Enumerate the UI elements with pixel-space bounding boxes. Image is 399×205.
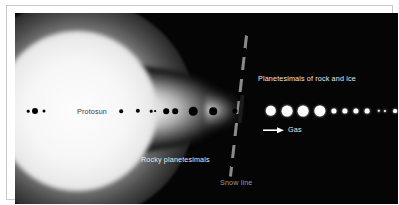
rocky-planetesimal <box>163 108 169 114</box>
rocky-planetesimal <box>172 108 178 114</box>
icy-planetesimal <box>331 108 336 113</box>
icy-planetesimal <box>298 106 309 117</box>
rocky-planetesimal <box>189 107 198 116</box>
label-protosun: Protosun <box>77 108 107 115</box>
diagram-canvas: Protosun Rocky planetesimals Planetesima… <box>15 13 398 204</box>
label-snow-line: Snow line <box>220 179 253 186</box>
icy-planetesimal <box>342 108 347 113</box>
rocky-planetesimal <box>154 110 156 112</box>
rocky-planetesimal <box>32 108 38 114</box>
label-rocky-planetesimals: Rocky planetesimals <box>141 156 210 163</box>
icy-planetesimal <box>378 110 380 112</box>
icy-planetesimal <box>282 106 293 117</box>
gas-annotation: Gas <box>263 126 302 134</box>
icy-planetesimal <box>393 109 397 113</box>
rocky-planetesimal <box>150 110 153 113</box>
figure-page: Protosun Rocky planetesimals Planetesima… <box>0 0 399 205</box>
arrow-right-icon <box>263 126 285 134</box>
rocky-planetesimal <box>209 107 217 115</box>
label-planetesimals-rock-and-ice: Planetesimals of rock and ice <box>258 75 356 82</box>
figure-frame: Protosun Rocky planetesimals Planetesima… <box>6 5 393 200</box>
icy-planetesimal <box>365 109 370 114</box>
rocky-planetesimal <box>27 110 30 113</box>
icy-planetesimal <box>384 110 386 112</box>
label-gas: Gas <box>288 126 302 133</box>
rocky-planetesimal <box>43 110 46 113</box>
icy-planetesimal <box>353 108 358 113</box>
icy-planetesimal <box>314 105 325 116</box>
rocky-planetesimal <box>119 109 123 113</box>
